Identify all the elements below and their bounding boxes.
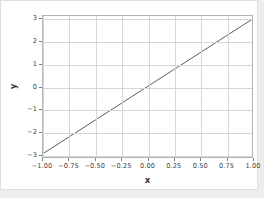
x-tick-label: −0.50 [84, 162, 105, 170]
y-tick-label: 3 [33, 14, 37, 22]
y-tick-mark [39, 132, 42, 133]
y-tick-mark [39, 87, 42, 88]
x-tick-mark [253, 158, 254, 161]
y-tick-label: −2 [27, 128, 37, 136]
x-tick-label: 0.75 [219, 162, 234, 170]
gridline-horizontal [43, 42, 252, 43]
x-tick-mark [95, 158, 96, 161]
x-tick-mark [200, 158, 201, 161]
y-tick-label: −3 [27, 151, 37, 159]
y-tick-mark [39, 64, 42, 65]
gridline-vertical [201, 16, 202, 157]
gridline-horizontal [43, 110, 252, 111]
x-tick-label: −0.25 [111, 162, 132, 170]
x-tick-mark [174, 158, 175, 161]
y-axis-label-text: y [10, 84, 19, 89]
x-tick-mark [227, 158, 228, 161]
gridline-vertical [43, 16, 44, 157]
x-tick-mark [42, 158, 43, 161]
gridline-vertical [96, 16, 97, 157]
x-tick-label: 1.00 [245, 162, 260, 170]
x-tick-label: −1.00 [32, 162, 53, 170]
x-tick-label: −0.75 [58, 162, 79, 170]
gridline-vertical [69, 16, 70, 157]
gridline-vertical [122, 16, 123, 157]
gridline-horizontal [43, 133, 252, 134]
x-tick-mark [68, 158, 69, 161]
y-tick-label: −1 [27, 105, 37, 113]
data-line-layer [43, 16, 252, 157]
x-tick-label: 0.00 [140, 162, 155, 170]
gridline-vertical [149, 16, 150, 157]
gridline-horizontal [43, 88, 252, 89]
y-tick-label: 0 [33, 83, 37, 91]
figure-card: −1.00−0.75−0.50−0.250.000.250.500.751.00… [0, 0, 258, 190]
y-tick-mark [39, 109, 42, 110]
x-tick-label: 0.50 [193, 162, 208, 170]
y-tick-label: 1 [33, 60, 37, 68]
gridline-vertical [175, 16, 176, 157]
gridline-horizontal [43, 156, 252, 157]
plot-area [42, 15, 253, 158]
y-tick-mark [39, 41, 42, 42]
y-tick-mark [39, 155, 42, 156]
y-axis-label: y [8, 15, 20, 158]
x-tick-mark [121, 158, 122, 161]
x-axis-label: x [42, 176, 253, 185]
gridline-horizontal [43, 65, 252, 66]
gridline-horizontal [43, 19, 252, 20]
y-tick-mark [39, 18, 42, 19]
y-tick-label: 2 [33, 37, 37, 45]
x-tick-label: 0.25 [166, 162, 181, 170]
gridline-vertical [228, 16, 229, 157]
x-tick-mark [148, 158, 149, 161]
